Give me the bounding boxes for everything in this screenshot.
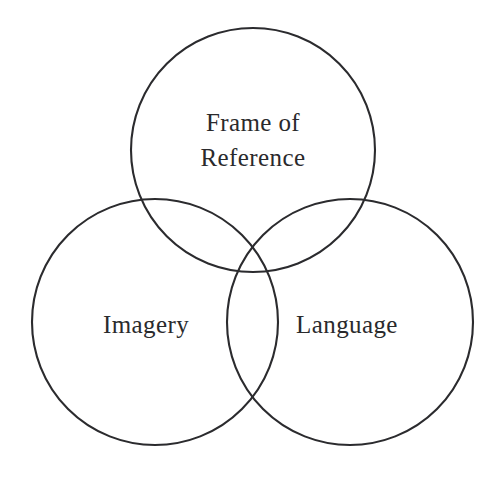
label-frame-of-reference-line-2: Reference <box>201 144 306 171</box>
label-imagery: Imagery <box>103 311 189 338</box>
venn-diagram: Frame of Reference Imagery Language <box>0 0 502 497</box>
venn-diagram-canvas: Frame of Reference Imagery Language <box>0 0 502 497</box>
label-frame-of-reference-line-1: Frame of <box>206 109 300 136</box>
label-language: Language <box>296 311 398 338</box>
